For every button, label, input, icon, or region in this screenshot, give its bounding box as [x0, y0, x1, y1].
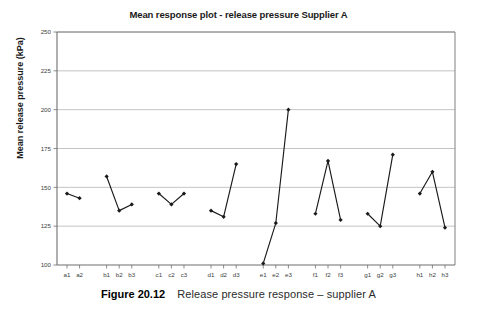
x-tick-label: f1 [313, 271, 319, 278]
x-tick-label: h3 [442, 271, 449, 278]
data-point-marker [391, 153, 395, 157]
data-point-marker [326, 159, 330, 163]
data-point-marker [65, 191, 69, 195]
x-tick-label: h2 [429, 271, 436, 278]
data-point-marker [234, 162, 238, 166]
x-tick-label: c1 [156, 271, 163, 278]
x-tick-label: d3 [233, 271, 240, 278]
caption-number: Figure 20.12 [101, 288, 165, 300]
data-point-marker [105, 174, 109, 178]
x-tick-label: f3 [338, 271, 344, 278]
series-line-a [67, 194, 80, 199]
data-point-marker [313, 212, 317, 216]
x-tick-label: b1 [103, 271, 110, 278]
x-tick-label: a1 [64, 271, 71, 278]
series-line-f [315, 161, 340, 220]
x-tick-label: e2 [272, 271, 279, 278]
x-tick-label: a2 [76, 271, 83, 278]
y-tick-label: 150 [41, 184, 52, 191]
x-tick-label: b3 [128, 271, 135, 278]
y-tick-label: 200 [41, 106, 52, 113]
x-axis-ticks: a1a2b1b2b3c1c2c3d1d2d3e1e2e3f1f2f3g1g2g3… [64, 265, 449, 278]
y-tick-label: 250 [41, 28, 52, 35]
figure-container: Mean response plot - release pressure Su… [0, 0, 477, 309]
series-line-e [263, 110, 288, 264]
x-tick-label: d1 [208, 271, 215, 278]
figure-caption: Figure 20.12Release pressure response – … [0, 288, 477, 300]
y-tick-label: 100 [41, 261, 52, 268]
y-tick-label: 175 [41, 145, 52, 152]
x-tick-label: h1 [416, 271, 423, 278]
x-tick-label: c3 [181, 271, 188, 278]
x-tick-label: g3 [389, 271, 396, 278]
gridlines [57, 32, 455, 226]
y-tick-label: 125 [41, 222, 52, 229]
data-point-marker [130, 202, 134, 206]
data-series [65, 108, 447, 266]
x-tick-label: c2 [168, 271, 175, 278]
data-point-marker [338, 218, 342, 222]
x-tick-label: b2 [116, 271, 123, 278]
data-point-marker [77, 196, 81, 200]
x-tick-label: e3 [285, 271, 292, 278]
series-line-d [211, 164, 236, 217]
data-point-marker [222, 215, 226, 219]
data-point-marker [286, 108, 290, 112]
x-tick-label: g1 [364, 271, 371, 278]
x-tick-label: e1 [260, 271, 267, 278]
series-line-h [420, 172, 445, 228]
series-line-g [368, 155, 393, 226]
caption-text: Release pressure response – supplier A [177, 288, 376, 300]
y-tick-label: 225 [41, 67, 52, 74]
data-point-marker [209, 209, 213, 213]
data-point-marker [117, 209, 121, 213]
x-tick-label: f2 [325, 271, 331, 278]
x-tick-label: d2 [220, 271, 227, 278]
line-chart-plot: 100125150175200225250 a1a2b1b2b3c1c2c3d1… [0, 0, 477, 285]
data-point-marker [274, 221, 278, 225]
series-line-b [107, 176, 132, 210]
x-tick-label: g2 [377, 271, 384, 278]
y-axis-ticks: 100125150175200225250 [41, 28, 57, 268]
